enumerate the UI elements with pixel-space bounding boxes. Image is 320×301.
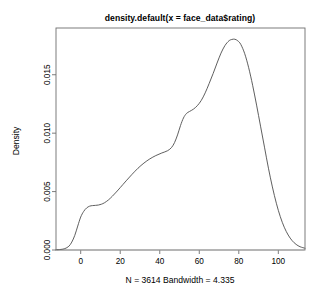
y-tick-label: 0.015	[43, 64, 52, 85]
y-tick-label: 0.005	[43, 181, 52, 202]
x-tick-label: 0	[78, 257, 83, 266]
x-tick-label: 60	[195, 257, 205, 266]
x-tick-label: 20	[116, 257, 126, 266]
plot-frame-box	[56, 28, 305, 250]
x-tick-label: 80	[234, 257, 244, 266]
x-tick-label: 40	[155, 257, 165, 266]
density-curve	[56, 39, 305, 250]
x-tick-label: 100	[271, 257, 285, 266]
plot-subcaption: N = 3614 Bandwidth = 4.335	[126, 275, 235, 285]
y-axis: 0.0000.0050.0100.015	[43, 64, 56, 260]
x-axis: 020406080100	[78, 250, 285, 266]
plot-title: density.default(x = face_data$rating)	[105, 13, 256, 23]
y-tick-label: 0.010	[43, 122, 52, 143]
y-axis-title: Density	[11, 126, 21, 155]
y-tick-label: 0.000	[43, 239, 52, 260]
density-plot-figure: density.default(x = face_data$rating) De…	[0, 0, 320, 301]
plot-canvas: density.default(x = face_data$rating) De…	[0, 0, 320, 301]
